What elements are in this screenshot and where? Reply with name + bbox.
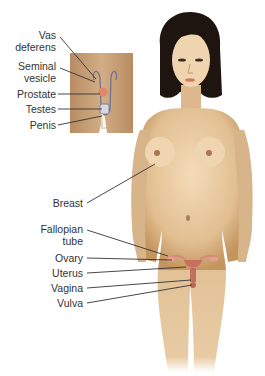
reproductive-anatomy-diagram: Vas deferens Seminal vesicle Prostate Te… [0, 0, 265, 376]
label-breast: Breast [53, 197, 83, 209]
label-vas-deferens: Vas deferens [15, 29, 56, 53]
female-figure [131, 12, 252, 372]
label-penis: Penis [30, 119, 56, 131]
label-fallopian-tube: Fallopian tube [40, 223, 83, 247]
label-seminal-vesicle: Seminal vesicle [18, 60, 56, 84]
label-vulva: Vulva [57, 297, 83, 309]
anatomy-illustration [0, 0, 265, 376]
label-uterus: Uterus [52, 267, 83, 279]
label-vagina: Vagina [51, 282, 83, 294]
label-prostate: Prostate [17, 88, 56, 100]
label-testes: Testes [26, 103, 56, 115]
label-ovary: Ovary [55, 252, 83, 264]
